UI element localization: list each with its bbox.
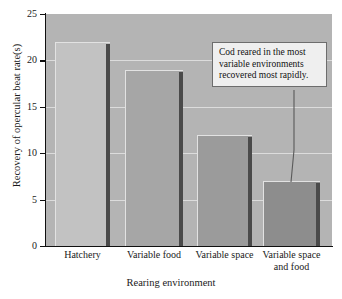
y-axis-title: Recovery of opercular beat rate(s) — [11, 16, 22, 216]
x-axis-label-line: Variable space — [247, 249, 337, 261]
y-axis-line — [45, 13, 46, 247]
y-tick-mark — [40, 14, 46, 15]
bar-shadow — [106, 44, 110, 246]
bar-shadow — [316, 183, 320, 246]
bar-shadow — [248, 137, 252, 246]
x-axis-label-line: and food — [247, 261, 337, 273]
annotation-line: recovered most rapidly. — [219, 70, 321, 82]
y-tick-mark — [40, 246, 46, 247]
bar — [263, 181, 320, 246]
bar — [125, 70, 183, 246]
bar-shadow — [179, 72, 183, 246]
annotation-line: Cod reared in the most — [219, 47, 321, 59]
y-tick-mark — [40, 200, 46, 201]
annotation-line: variable environments — [219, 59, 321, 71]
y-tick-label: 0 — [11, 241, 37, 251]
x-axis-title: Rearing environment — [0, 277, 342, 288]
bar — [55, 42, 110, 246]
y-tick-mark — [40, 107, 46, 108]
y-tick-mark — [40, 153, 46, 154]
bar-chart-figure: 0510152025 HatcheryVariable foodVariable… — [0, 0, 342, 299]
y-tick-mark — [40, 60, 46, 61]
bar — [197, 135, 252, 246]
x-axis-label: Variable spaceand food — [247, 249, 337, 272]
annotation-callout: Cod reared in the mostvariable environme… — [212, 42, 327, 87]
